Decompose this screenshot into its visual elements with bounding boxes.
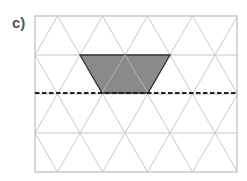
shaded-trapezoid [80, 55, 170, 93]
triangle-grid-diagram [0, 0, 247, 181]
